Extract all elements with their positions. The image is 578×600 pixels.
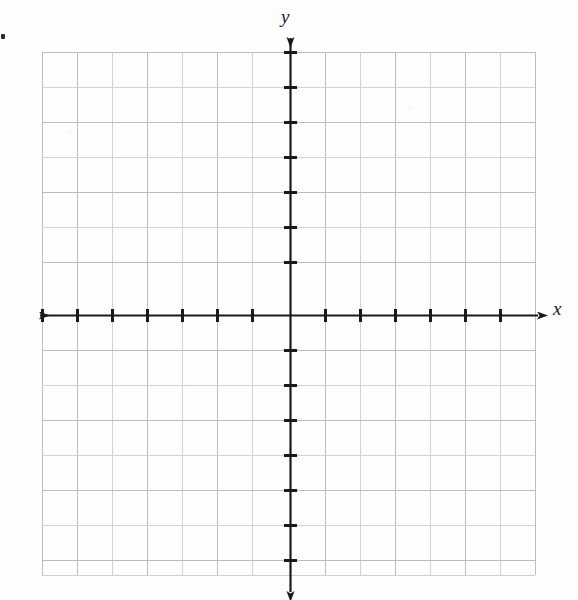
x-axis-label: x <box>553 299 561 318</box>
grid-lines-horizontal <box>42 53 535 576</box>
grid-lines-vertical <box>43 52 536 575</box>
y-axis-label: y <box>281 7 289 26</box>
coordinate-grid-graph <box>0 0 578 600</box>
worksheet-page: x y <box>0 0 578 600</box>
